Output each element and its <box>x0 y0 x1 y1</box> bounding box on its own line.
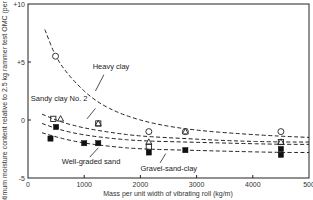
x-axis-title: Mass per unit width of vibrating roll (k… <box>103 190 233 198</box>
chart: 01000200030004000500 +10+50-5 Heavy clay… <box>0 0 313 200</box>
curve-sandy-clay-no-2 <box>42 114 309 142</box>
point-filled-square <box>54 124 59 129</box>
annotation-gravel-sand-clay: Gravel-sand-clay <box>140 164 197 173</box>
x-axis: 01000200030004000500 <box>26 175 313 188</box>
x-tick-label: 2000 <box>133 181 149 188</box>
point-filled-square <box>183 148 188 153</box>
point-filled-square <box>278 152 283 157</box>
point-open-square <box>51 116 56 121</box>
y-axis-title: Optimum moisture content relative to 2.5… <box>1 0 9 200</box>
plot-frame <box>28 4 309 178</box>
leader-line <box>90 148 98 157</box>
x-tick-label: 1000 <box>76 181 92 188</box>
x-tick-label: 4000 <box>245 181 261 188</box>
curve-heavy-clay <box>45 30 309 138</box>
leader-line <box>87 108 95 118</box>
annotation-sandy-clay-no-2: Sandy clay No. 2 <box>31 94 88 103</box>
leader-line <box>160 154 166 163</box>
y-tick-label: +10 <box>13 1 25 8</box>
point-filled-square <box>146 150 151 155</box>
y-tick-label: -5 <box>19 175 25 182</box>
y-tick-label: +5 <box>17 59 25 66</box>
y-tick-label: 0 <box>21 117 25 124</box>
point-open-triangle <box>146 139 152 145</box>
fitted-curves <box>42 30 309 153</box>
point-open-circle <box>278 129 284 135</box>
leader-line <box>95 75 103 91</box>
point-filled-square <box>278 146 283 151</box>
x-tick-label: 500 <box>303 181 313 188</box>
annotation-heavy-clay: Heavy clay <box>93 62 130 71</box>
point-open-square <box>146 144 151 149</box>
annotation-well-graded-sand: Well-graded sand <box>62 157 121 166</box>
x-tick-label: 3000 <box>189 181 205 188</box>
x-tick-label: 0 <box>26 181 30 188</box>
point-filled-square <box>48 136 53 141</box>
point-open-circle <box>53 53 59 59</box>
point-filled-square <box>96 141 101 146</box>
point-filled-square <box>82 141 87 146</box>
point-open-triangle <box>58 116 64 122</box>
point-open-circle <box>146 129 152 135</box>
